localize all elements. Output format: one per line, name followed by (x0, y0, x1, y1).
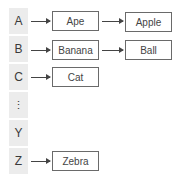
index-cell-y: Y (9, 120, 28, 146)
node-label: Apple (136, 17, 162, 28)
node-apple: Apple (125, 12, 172, 32)
arrow-icon (31, 21, 50, 22)
index-label: Y (14, 126, 22, 140)
vertical-ellipsis-icon: ⋮ (13, 100, 24, 111)
node-label: Ape (67, 16, 85, 27)
node-banana: Banana (52, 40, 99, 60)
node-ape: Ape (52, 11, 99, 31)
index-cell-b: B (9, 36, 28, 62)
node-label: Cat (68, 72, 84, 83)
index-cell-z: Z (9, 148, 28, 174)
node-label: Ball (140, 45, 157, 56)
index-cell-ellipsis: ⋮ (9, 92, 28, 118)
node-ball: Ball (125, 40, 172, 60)
node-label: Zebra (62, 156, 88, 167)
arrow-icon (31, 77, 50, 78)
arrow-icon (102, 50, 123, 51)
index-label: B (14, 42, 22, 56)
index-cell-a: A (9, 8, 28, 34)
node-zebra: Zebra (52, 151, 99, 171)
index-label: C (14, 70, 23, 84)
arrow-icon (31, 50, 50, 51)
node-label: Banana (58, 45, 92, 56)
index-label: Z (15, 154, 22, 168)
index-label: A (14, 14, 22, 28)
arrow-icon (102, 21, 123, 22)
node-cat: Cat (52, 67, 99, 87)
arrow-icon (31, 161, 50, 162)
index-cell-c: C (9, 64, 28, 90)
